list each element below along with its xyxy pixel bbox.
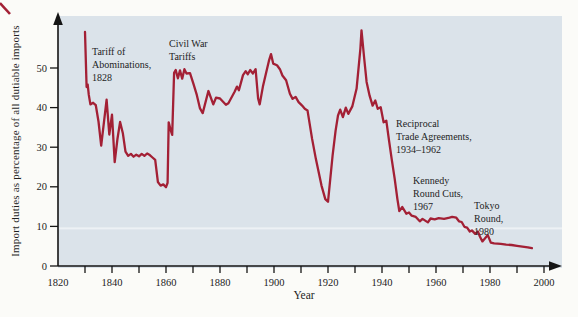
- x-tick-label: 1900: [264, 277, 285, 288]
- chart-canvas: 1820184018601880190019201940196019802000…: [0, 0, 578, 317]
- x-tick-label: 1920: [318, 277, 339, 288]
- x-tick-label: 1860: [156, 277, 177, 288]
- annotation-tariff-of-abominations: Tariff of Abominations, 1828: [92, 45, 151, 84]
- y-tick-label: 20: [37, 181, 48, 192]
- x-tick-label: 1940: [372, 277, 393, 288]
- annotation-tokyo-round: Tokyo Round, 1980: [474, 199, 503, 238]
- annotation-line: Reciprocal: [396, 117, 472, 130]
- y-tick-label: 10: [37, 221, 48, 232]
- annotation-reciprocal-trade: Reciprocal Trade Agreements, 1934–1962: [396, 117, 472, 156]
- x-axis-title: Year: [293, 289, 314, 301]
- annotation-line: 1967: [413, 200, 463, 213]
- y-tick-label: 0: [42, 261, 47, 272]
- tariff-history-figure: 1820184018601880190019201940196019802000…: [0, 0, 578, 317]
- annotation-line: Abominations,: [92, 58, 151, 71]
- annotation-line: 1980: [474, 225, 503, 238]
- annotation-line: Kennedy: [413, 174, 463, 187]
- x-tick-label: 2000: [534, 277, 555, 288]
- x-tick-label: 1820: [48, 277, 69, 288]
- y-axis-title: Import duties as percentage of all dutia…: [9, 25, 21, 257]
- x-tick-label: 1880: [210, 277, 231, 288]
- corner-crop-mark: [0, 3, 10, 14]
- x-tick-label: 1840: [102, 277, 123, 288]
- annotation-kennedy-round: Kennedy Round Cuts, 1967: [413, 174, 463, 213]
- x-tick-label: 1960: [426, 277, 447, 288]
- annotation-civil-war-tariffs: Civil War Tariffs: [169, 37, 208, 63]
- annotation-line: Tariff of: [92, 45, 151, 58]
- annotation-line: Tokyo: [474, 199, 503, 212]
- annotation-line: Civil War: [169, 37, 208, 50]
- y-tick-label: 30: [37, 142, 48, 153]
- annotation-line: Trade Agreements,: [396, 130, 472, 143]
- annotation-line: 1828: [92, 71, 151, 84]
- annotation-line: Round Cuts,: [413, 187, 463, 200]
- y-tick-label: 50: [37, 63, 48, 74]
- x-tick-label: 1980: [480, 277, 501, 288]
- annotation-line: 1934–1962: [396, 143, 472, 156]
- annotation-line: Tariffs: [169, 50, 208, 63]
- y-tick-label: 40: [37, 102, 48, 113]
- annotation-line: Round,: [474, 212, 503, 225]
